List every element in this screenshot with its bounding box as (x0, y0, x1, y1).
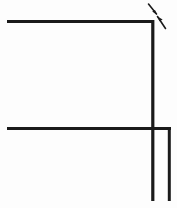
figure-canvas: Technical line drawing of two nested rig… (0, 0, 177, 208)
upper-leader-arrow-head (152, 10, 157, 15)
lower-leader-arrow-head (157, 16, 163, 21)
outer-corner-profile (7, 20, 154, 201)
inner-corner-profile (7, 127, 171, 201)
leader-arrow-group (149, 4, 166, 29)
line-drawing-svg (0, 0, 177, 208)
